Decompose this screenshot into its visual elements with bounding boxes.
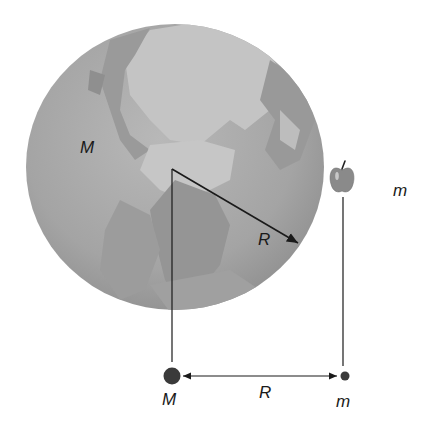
globe-mass-label: M	[80, 138, 95, 157]
gravity-diagram: M R m R M m	[0, 0, 432, 425]
large-mass-dot	[164, 368, 181, 385]
apple-mass-label: m	[393, 181, 407, 200]
small-mass-label: m	[336, 392, 350, 411]
radius-label: R	[258, 230, 270, 249]
separation-label: R	[259, 383, 271, 402]
large-mass-label: M	[162, 390, 177, 409]
earth-globe	[26, 22, 324, 312]
small-mass-dot	[341, 372, 350, 381]
apple-icon	[330, 161, 354, 192]
